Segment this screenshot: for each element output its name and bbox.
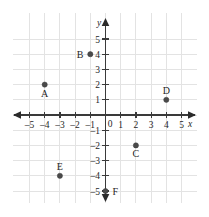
plotted-point-d: [164, 97, 169, 102]
x-axis-label: x: [187, 119, 193, 129]
x-tick-label: 1: [118, 120, 123, 130]
plotted-point-a: [42, 82, 47, 87]
point-label-f: F: [113, 186, 119, 197]
y-tick-label: –3: [90, 156, 101, 166]
x-tick-label: –4: [39, 120, 50, 130]
point-label-e: E: [57, 161, 63, 172]
y-tick-label: 4: [95, 50, 100, 60]
axis-names: x y 0: [96, 18, 193, 129]
y-tick-label: –2: [90, 141, 101, 151]
y-tick-label: –4: [90, 171, 101, 181]
plotted-point-f: [103, 188, 108, 193]
y-tick-label: 5: [95, 35, 100, 45]
x-tick-label: 3: [149, 120, 154, 130]
x-axis-arrow-right: [188, 111, 196, 119]
axes: [13, 18, 196, 202]
plotted-point-b: [88, 52, 93, 57]
y-tick-label: 2: [95, 80, 100, 90]
y-tick-label: 1: [95, 95, 100, 105]
origin-label: 0: [108, 119, 113, 129]
coordinate-plane-figure: –5–4–3–2–11234554321–1–2–3–4–5 x y 0 ABC…: [0, 0, 209, 217]
point-label-c: C: [133, 148, 140, 159]
y-tick-label: –5: [90, 187, 101, 197]
x-tick-label: –5: [24, 120, 35, 130]
x-tick-label: 2: [134, 120, 139, 130]
coordinate-plane-svg: –5–4–3–2–11234554321–1–2–3–4–5 x y 0 ABC…: [0, 0, 209, 217]
y-axis-arrow-top: [102, 18, 110, 26]
y-axis-label: y: [96, 18, 102, 28]
point-label-d: D: [163, 85, 170, 96]
y-tick-label: 3: [95, 65, 100, 75]
x-tick-label: –3: [54, 120, 65, 130]
y-axis-arrow-bottom: [102, 194, 110, 202]
x-tick-label: 5: [179, 120, 184, 130]
x-tick-label: –2: [69, 120, 80, 130]
x-tick-label: 4: [164, 120, 169, 130]
plotted-point-e: [57, 173, 62, 178]
point-label-b: B: [77, 49, 84, 60]
point-label-a: A: [41, 88, 49, 99]
y-tick-label: –1: [90, 126, 101, 136]
x-axis-arrow-left: [13, 111, 21, 119]
plotted-point-c: [133, 143, 138, 148]
